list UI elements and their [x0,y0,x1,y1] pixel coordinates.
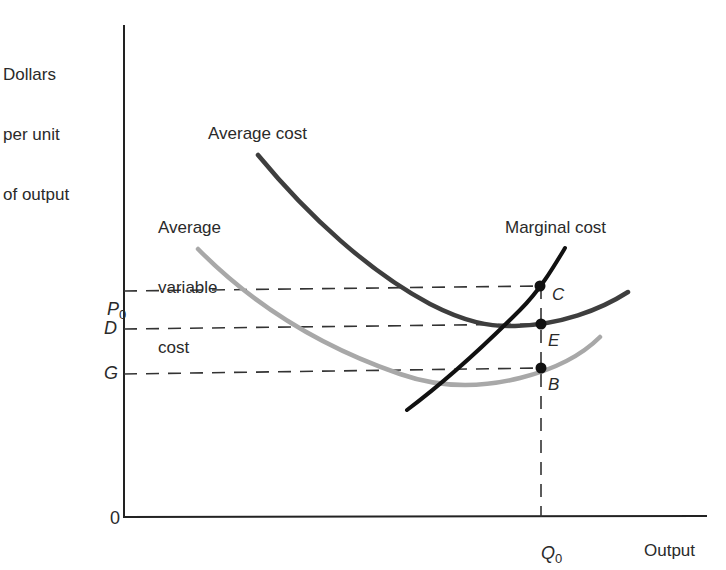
point-e-label: E [548,331,559,351]
p0-tick-label: P0 [97,279,126,321]
q0-tick-label: Q0 [531,523,562,565]
y-axis-label-line-1: Dollars [3,65,69,85]
y-axis-label-line-2: per unit [3,125,69,145]
q0-letter: Q [541,543,555,563]
point-b-label: B [548,375,559,395]
average-cost-label: Average cost [208,124,307,144]
origin-label: 0 [110,508,120,528]
x-axis [123,516,707,517]
point-c-label: C [552,285,564,305]
y-axis-label-line-3: of output [3,185,69,205]
q0-subscript: 0 [555,551,562,566]
point-c [535,281,546,292]
avc-label: Average variable cost [158,178,221,378]
avc-label-line-3: cost [158,338,221,358]
marginal-cost-label: Marginal cost [505,218,606,238]
d-tick-label: D [104,318,117,338]
avc-label-line-1: Average [158,218,221,238]
g-tick-label: G [104,363,118,383]
p0-letter: P [107,299,119,319]
y-axis-label: Dollars per unit of output [3,25,69,225]
point-e [536,319,547,330]
avc-label-line-2: variable [158,278,221,298]
x-axis-label: Output [644,541,695,561]
p0-subscript: 0 [119,307,126,322]
average-cost-curve [258,155,628,326]
point-b [536,363,547,374]
